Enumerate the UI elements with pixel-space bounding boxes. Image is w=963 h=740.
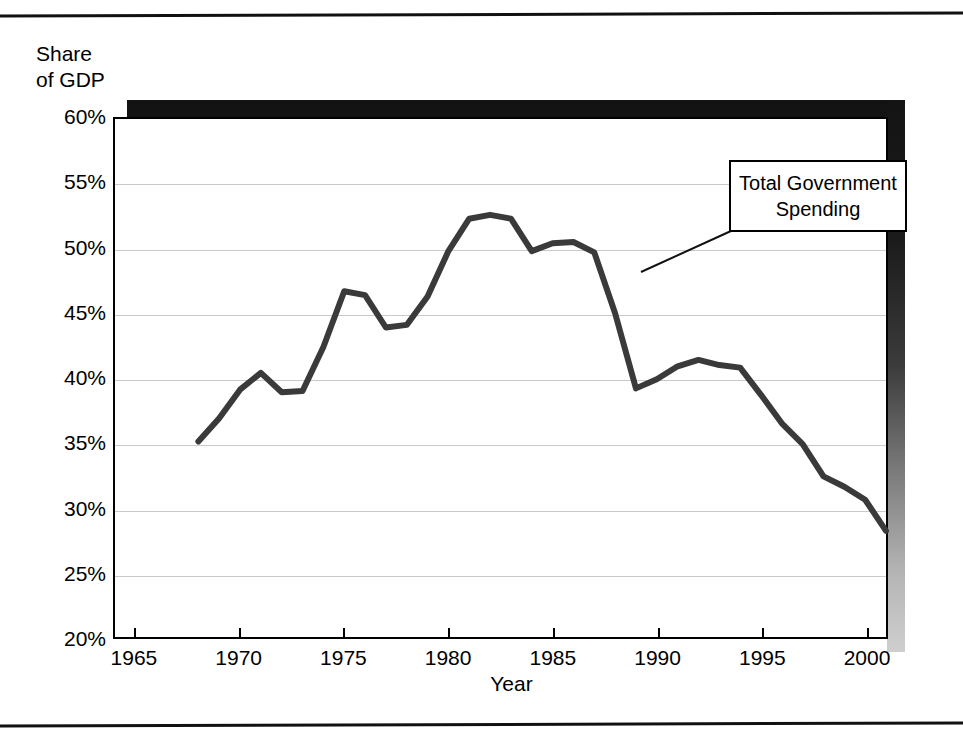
x-tick-label: 1985	[530, 647, 577, 669]
chart-figure: Share of GDP 60%55%50%45%40%35%30%25%20%…	[0, 0, 963, 740]
y-tick-label: 50%	[22, 237, 106, 258]
x-axis-title: Year	[0, 672, 963, 696]
x-tick-label: 1995	[739, 647, 786, 669]
x-tick-label: 1990	[634, 647, 681, 669]
y-tick-label: 55%	[22, 171, 106, 192]
y-tick-label: 60%	[22, 106, 106, 127]
y-tick-label: 35%	[22, 432, 106, 453]
x-axis-title-text: Year	[490, 672, 532, 695]
y-tick-label: 30%	[22, 498, 106, 519]
annotation-line1: Total Government	[739, 170, 897, 196]
x-tick-mark	[134, 628, 136, 639]
x-tick-label: 1980	[425, 647, 472, 669]
y-tick-label: 20%	[22, 628, 106, 649]
x-tick-label: 1975	[320, 647, 367, 669]
x-tick-mark	[867, 628, 869, 639]
x-tick-mark	[343, 628, 345, 639]
x-tick-label: 2000	[844, 647, 891, 669]
y-axis-title: Share of GDP	[36, 41, 105, 93]
y-tick-label: 45%	[22, 302, 106, 323]
x-tick-label: 1965	[111, 647, 158, 669]
page-rule-top	[0, 11, 963, 17]
x-tick-mark	[762, 628, 764, 639]
x-tick-mark	[448, 628, 450, 639]
x-tick-mark	[239, 628, 241, 639]
y-tick-label: 40%	[22, 367, 106, 388]
y-tick-label: 25%	[22, 563, 106, 584]
annotation-line2: Spending	[776, 196, 861, 222]
page-rule-bottom	[0, 721, 963, 727]
y-axis-title-line1: Share	[36, 41, 105, 67]
x-tick-label: 1970	[215, 647, 262, 669]
plot-shadow-top	[127, 100, 905, 118]
y-axis-tick-labels: 60%55%50%45%40%35%30%25%20%	[14, 117, 106, 639]
annotation-leader-line	[630, 222, 745, 282]
annotation-total-government-spending: Total Government Spending	[729, 160, 907, 232]
x-tick-mark	[553, 628, 555, 639]
x-tick-mark	[658, 628, 660, 639]
y-axis-title-line2: of GDP	[36, 67, 105, 93]
series-line	[198, 215, 886, 531]
